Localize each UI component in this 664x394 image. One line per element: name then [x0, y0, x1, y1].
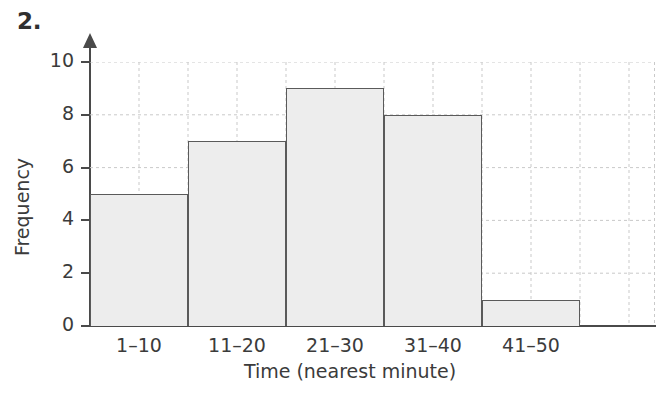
- y-axis-tick-label: 8: [0, 102, 74, 124]
- y-axis-tick: [81, 325, 90, 327]
- y-axis-tick: [81, 61, 90, 63]
- y-axis-tick-label: 10: [0, 49, 74, 71]
- y-axis-tick-label: 4: [0, 207, 74, 229]
- y-axis-tick: [81, 167, 90, 169]
- histogram-bar: [188, 141, 286, 326]
- y-axis-tick-label: 6: [0, 155, 74, 177]
- y-axis-tick: [81, 272, 90, 274]
- y-axis-tick: [81, 219, 90, 221]
- y-axis-arrow-icon: [83, 33, 97, 48]
- plot-area: [90, 62, 655, 326]
- y-axis-tick-label: 2: [0, 260, 74, 282]
- histogram-bar: [482, 300, 580, 326]
- y-axis-tick-label: 0: [0, 313, 74, 335]
- x-axis-tick-label: 41–50: [482, 334, 580, 356]
- x-axis-title: Time (nearest minute): [0, 360, 664, 382]
- x-axis-tick-label: 11–20: [188, 334, 286, 356]
- x-axis-tick-label: 1–10: [90, 334, 188, 356]
- bars-group: [90, 62, 655, 326]
- x-axis-tick-label: 31–40: [384, 334, 482, 356]
- histogram-bar: [286, 88, 384, 326]
- x-axis-tick-label: 21–30: [286, 334, 384, 356]
- y-axis-tick: [81, 114, 90, 116]
- histogram-bar: [384, 115, 482, 326]
- question-number: 2.: [17, 8, 41, 34]
- histogram-bar: [90, 194, 188, 326]
